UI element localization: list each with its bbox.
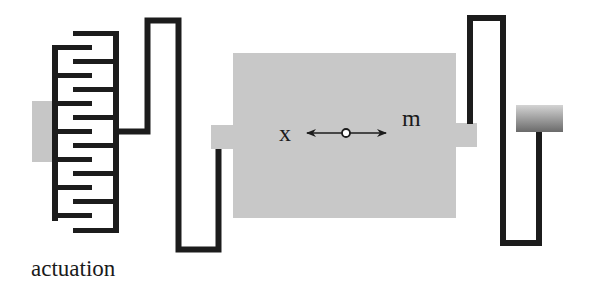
comb-fixed [52, 45, 92, 221]
resonator-diagram: x m actuation [0, 0, 593, 289]
mass-label: m [402, 105, 421, 131]
left-anchor [32, 101, 54, 162]
right-anchor [516, 105, 563, 132]
left-folded-spring [116, 21, 219, 250]
mass-right-tab [454, 123, 477, 147]
actuation-label: actuation [31, 256, 116, 281]
mass-left-tab [211, 125, 235, 149]
center-point-icon [342, 129, 350, 137]
displacement-label: x [279, 120, 291, 146]
